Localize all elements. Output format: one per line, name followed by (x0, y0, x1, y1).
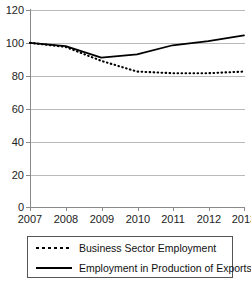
x-tick-mark-2013 (244, 207, 245, 211)
x-tick-label-2012: 2012 (192, 213, 226, 225)
y-tick-label-40: 40 (0, 137, 24, 148)
y-tick-mark-120 (26, 10, 30, 11)
x-tick-mark-2012 (209, 207, 210, 211)
series-line-employment-in-production-of-exports (30, 35, 244, 57)
gridline-40 (30, 142, 245, 143)
chart-legend: Business Sector Employment Employment in… (27, 236, 233, 278)
x-tick-label-2013: 2013 (227, 213, 251, 225)
legend-entry-business-sector-employment: Business Sector Employment (28, 237, 232, 258)
legend-entry-employment-in-production-of-exports: Employment in Production of Exports (28, 257, 232, 278)
series-line-business-sector-employment (30, 43, 244, 73)
x-tick-label-2007: 2007 (13, 213, 47, 225)
line-chart-figure: 120 100 80 60 40 20 0 2007 2008 2009 201… (0, 0, 251, 284)
legend-label-employment-in-production-of-exports: Employment in Production of Exports (79, 262, 251, 274)
x-tick-label-2009: 2009 (85, 213, 119, 225)
x-tick-mark-2007 (30, 207, 31, 211)
y-tick-mark-80 (26, 76, 30, 77)
x-tick-mark-2011 (173, 207, 174, 211)
legend-label-business-sector-employment: Business Sector Employment (79, 242, 216, 254)
gridline-60 (30, 109, 245, 110)
y-tick-label-120: 120 (0, 5, 24, 16)
gridline-120 (30, 10, 245, 11)
y-tick-label-100: 100 (0, 38, 24, 49)
gridline-100 (30, 43, 245, 44)
x-tick-mark-2008 (66, 207, 67, 211)
solid-line-swatch-icon (36, 262, 72, 274)
y-tick-mark-100 (26, 43, 30, 44)
gridline-20 (30, 175, 245, 176)
y-tick-label-0: 0 (0, 202, 24, 213)
x-tick-label-2011: 2011 (156, 213, 190, 225)
x-tick-label-2008: 2008 (49, 213, 83, 225)
y-tick-mark-60 (26, 109, 30, 110)
y-tick-label-20: 20 (0, 170, 24, 181)
y-tick-mark-40 (26, 142, 30, 143)
y-tick-label-60: 60 (0, 104, 24, 115)
gridline-80 (30, 76, 245, 77)
x-tick-mark-2010 (138, 207, 139, 211)
y-tick-label-80: 80 (0, 71, 24, 82)
x-tick-mark-2009 (102, 207, 103, 211)
x-tick-label-2010: 2010 (121, 213, 155, 225)
dotted-line-swatch-icon (36, 242, 72, 254)
axis-line-y (30, 9, 31, 208)
y-tick-mark-20 (26, 175, 30, 176)
